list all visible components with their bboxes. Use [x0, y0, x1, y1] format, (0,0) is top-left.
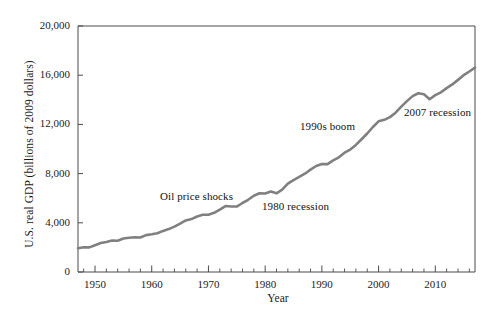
- x-tick-label: 1980: [235, 278, 295, 290]
- y-tick-label: 4,000: [10, 216, 70, 228]
- y-tick-label: 0: [10, 265, 70, 277]
- y-tick-label: 8,000: [10, 167, 70, 179]
- chart-annotation: 2007 recession: [404, 106, 471, 118]
- x-tick-label: 1970: [178, 278, 238, 290]
- y-tick-label: 20,000: [10, 19, 70, 31]
- gdp-line-series: [78, 68, 475, 249]
- chart-annotation: 1980 recession: [262, 200, 329, 212]
- x-tick-label: 1990: [292, 278, 352, 290]
- y-axis-ticks: [78, 26, 83, 272]
- x-axis-minor-ticks: [84, 269, 470, 273]
- x-tick-label: 2010: [405, 278, 465, 290]
- chart-annotation: Oil price shocks: [160, 190, 233, 202]
- x-tick-label: 1950: [65, 278, 125, 290]
- x-axis-major-ticks: [95, 266, 435, 273]
- chart-figure: U.S. real GDP (billions of 2009 dollars)…: [0, 0, 493, 322]
- y-tick-label: 12,000: [10, 117, 70, 129]
- x-tick-label: 1960: [122, 278, 182, 290]
- y-tick-label: 16,000: [10, 68, 70, 80]
- x-axis-title: Year: [178, 292, 378, 304]
- chart-annotation: 1990s boom: [300, 120, 355, 132]
- chart-plot-area: [0, 0, 493, 322]
- x-tick-label: 2000: [349, 278, 409, 290]
- axes-frame: [78, 26, 475, 272]
